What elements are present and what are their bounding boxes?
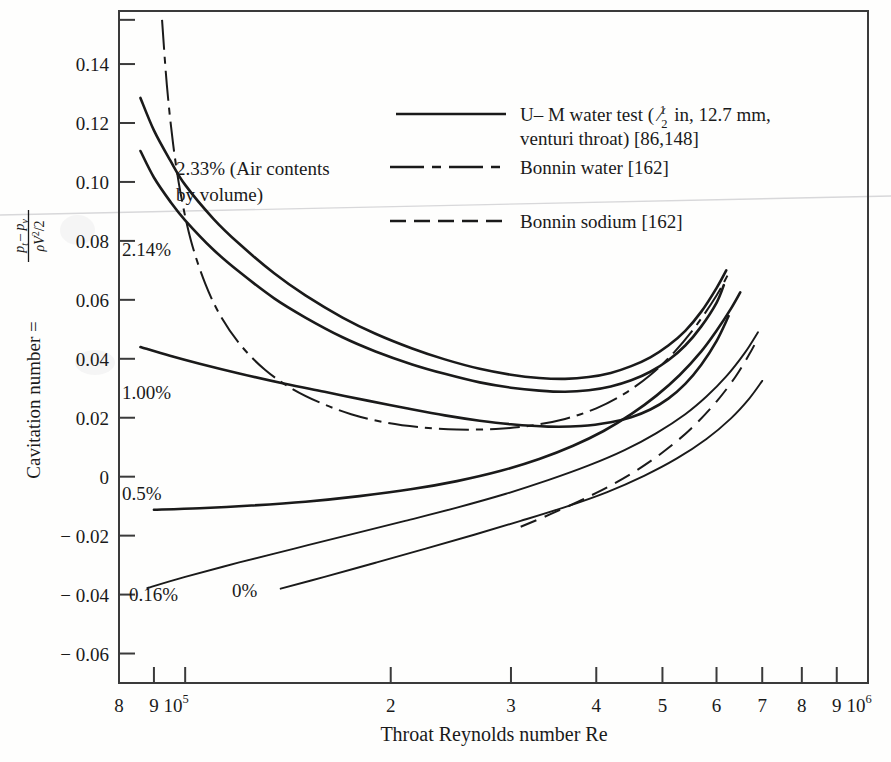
scan-artifact-line xyxy=(0,196,891,215)
x-axis-ticks xyxy=(154,667,837,683)
x-tick-label: 8 xyxy=(797,695,807,716)
x-tick-label: 9 xyxy=(832,695,842,716)
y-tick-label: 0 xyxy=(100,467,110,488)
x-tick-label: 8 xyxy=(114,695,124,716)
curve-0-5-air-content-u-m-water-test xyxy=(154,292,740,509)
x-tick-label: 4 xyxy=(592,695,602,716)
x-tick-label: 5 xyxy=(658,695,668,716)
annotation-a016: 0.16% xyxy=(129,584,178,605)
y-axis-ticks xyxy=(119,20,135,654)
cavitation-number-chart: 0.140.120.100.080.060.040.020− 0.02− 0.0… xyxy=(0,0,891,762)
annotation-a214: 2.14% xyxy=(122,239,171,260)
legend-label-um-line1: U– M water test ( 1⁄2 in, 12.7 mm, xyxy=(520,103,771,131)
x-tick-label: 2 xyxy=(386,695,396,716)
curve-annotations: 2.33% (Air contentsby volume)2.14%1.00%0… xyxy=(122,158,330,605)
y-axis-fraction-denominator: ρV2/2 xyxy=(30,220,47,252)
y-tick-label: − 0.02 xyxy=(60,526,109,547)
annotation-a233: 2.33% (Air contents xyxy=(176,158,330,180)
y-tick-label: − 0.06 xyxy=(60,644,109,665)
y-tick-label: 0.08 xyxy=(76,231,109,252)
chart-legend: U– M water test ( 1⁄2 in, 12.7 mm, ventu… xyxy=(390,103,771,232)
curve-0-16-air-content-u-m-water-test xyxy=(147,332,758,588)
annotation-a05: 0.5% xyxy=(122,483,162,504)
y-tick-label: 0.14 xyxy=(76,54,110,75)
annotation-a233b: by volume) xyxy=(176,184,263,206)
y-tick-label: − 0.04 xyxy=(60,585,109,606)
y-axis-fraction-numerator: pt– pv xyxy=(12,219,30,254)
x-axis-tick-labels: 8910523456789106 xyxy=(114,692,871,716)
x-axis-title: Throat Reynolds number Re xyxy=(380,723,607,746)
x-tick-label: 7 xyxy=(757,695,767,716)
y-tick-label: 0.06 xyxy=(76,290,109,311)
annotation-a100: 1.00% xyxy=(122,382,171,403)
y-tick-label: 0.02 xyxy=(76,408,109,429)
y-axis-title: Cavitation number = xyxy=(23,321,44,478)
y-axis-title-prefix: Cavitation number = xyxy=(23,321,44,478)
x-tick-label: 106 xyxy=(846,692,871,716)
y-tick-label: 0.04 xyxy=(76,349,110,370)
curve-0-air-content-u-m-water-test xyxy=(281,381,763,589)
x-tick-label: 3 xyxy=(506,695,516,716)
legend-label-bonnin-sodium: Bonnin sodium [162] xyxy=(520,211,683,232)
y-axis-tick-labels: 0.140.120.100.080.060.040.020− 0.02− 0.0… xyxy=(60,54,109,664)
x-tick-label: 105 xyxy=(164,692,189,716)
x-tick-label: 9 xyxy=(149,695,159,716)
legend-label-um-line2: venturi throat) [86,148] xyxy=(520,128,699,150)
legend-label-bonnin-water: Bonnin water [162] xyxy=(520,157,669,178)
y-tick-label: 0.10 xyxy=(76,172,109,193)
y-tick-label: 0.12 xyxy=(76,113,109,134)
annotation-a0: 0% xyxy=(232,580,258,601)
x-tick-label: 6 xyxy=(712,695,722,716)
curve-bonnin-sodium xyxy=(521,338,758,527)
chart-svg: 0.140.120.100.080.060.040.020− 0.02− 0.0… xyxy=(0,0,891,762)
y-axis-title-fraction: pt– pv ρV2/2 xyxy=(12,210,47,262)
